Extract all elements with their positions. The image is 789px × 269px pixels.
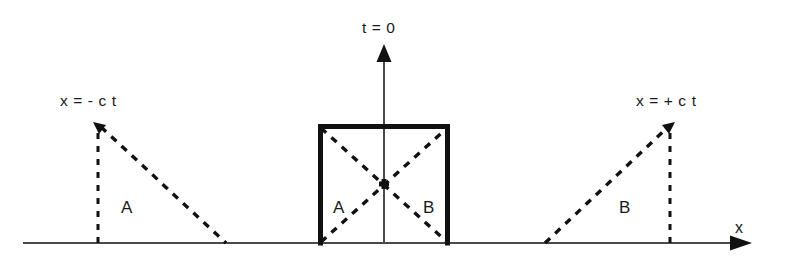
t-axis-arrowhead [377,44,392,62]
box-left-region-label: A [333,199,344,216]
right-worldline-arrowhead [662,122,675,134]
x-axis-label: x [735,220,743,236]
left-diagonal-dashed-line [101,127,226,243]
right-region-label: B [619,199,630,216]
left-region-label: A [121,199,132,216]
diagram-canvas [0,0,789,269]
right-worldline-label: x = + c t [636,93,697,109]
x-axis-arrowhead [730,236,752,251]
spacetime-diagram-figure: x = - c t x = + c t t = 0 A A B B x [0,0,789,269]
left-worldline-label: x = - c t [60,93,117,109]
right-diagonal-dashed-line [545,127,668,243]
box-right-region-label: B [423,199,434,216]
t-axis-label: t = 0 [362,20,396,36]
